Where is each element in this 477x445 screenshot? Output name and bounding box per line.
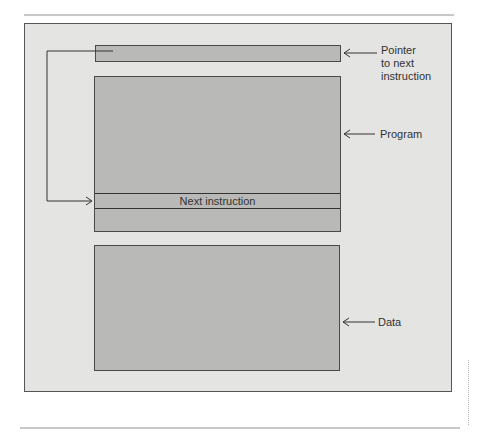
top-rule xyxy=(24,14,454,16)
pointer-elbow-arrow xyxy=(47,51,113,201)
bottom-rule xyxy=(20,427,460,429)
diagram-frame: Next instruction Pointer to next instruc… xyxy=(24,23,452,392)
margin-marks xyxy=(468,360,471,425)
arrows-layer xyxy=(25,24,453,393)
